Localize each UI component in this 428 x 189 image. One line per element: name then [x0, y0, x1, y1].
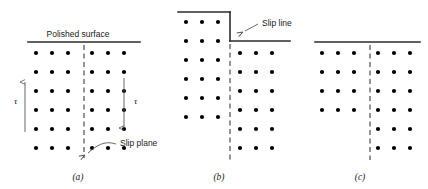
polished-surface-label: Polished surface [47, 29, 110, 39]
atom-dot-right [106, 70, 110, 74]
atom-dot-right [270, 89, 274, 93]
atom-dot-right [106, 89, 110, 93]
atom-dot-right [106, 51, 110, 55]
atom-dot-left [34, 108, 38, 112]
atom-dot-right [122, 51, 126, 55]
panel-caption-a: (a) [72, 172, 83, 183]
atom-dot-left [352, 70, 356, 74]
atom-dot-left [352, 108, 356, 112]
atom-dot-right [408, 89, 412, 93]
slip-deformation-figure: ττPolished surfaceSlip plane(a)Slip line… [0, 0, 428, 189]
atom-dot-right [238, 89, 242, 93]
atom-dot-left [66, 51, 70, 55]
atom-dot-left [200, 58, 204, 62]
atom-dot-left [184, 115, 188, 119]
panel-caption-c: (c) [355, 172, 366, 183]
atom-dot-left [320, 108, 324, 112]
atom-dot-right [106, 108, 110, 112]
atom-dot-left [352, 51, 356, 55]
atom-dot-left [336, 51, 340, 55]
atom-dot-left [50, 108, 54, 112]
atom-dot-left [50, 70, 54, 74]
atom-dot-right [254, 89, 258, 93]
atom-dot-right [254, 70, 258, 74]
atom-dot-left [200, 96, 204, 100]
atom-dot-right [238, 51, 242, 55]
atom-dot-right [376, 127, 380, 131]
atom-dot-right [376, 89, 380, 93]
atom-dot-right [376, 108, 380, 112]
atom-dot-left [336, 108, 340, 112]
atom-dot-left [184, 96, 188, 100]
atom-dot-right [408, 146, 412, 150]
atom-dot-right [254, 127, 258, 131]
atom-dot-right [106, 146, 110, 150]
atom-dot-right [270, 127, 274, 131]
atom-dot-right [392, 146, 396, 150]
atom-dot-right [254, 108, 258, 112]
atom-dot-right [270, 51, 274, 55]
figure-container: ττPolished surfaceSlip plane(a)Slip line… [0, 0, 428, 189]
atom-dot-left [184, 77, 188, 81]
atom-dot-right [376, 146, 380, 150]
atom-dot-right [392, 51, 396, 55]
atom-dot-left [184, 20, 188, 24]
atom-dot-left [200, 115, 204, 119]
panel-caption-b: (b) [213, 172, 224, 183]
atom-dot-left [50, 89, 54, 93]
atom-dot-right [408, 108, 412, 112]
atom-dot-left [34, 127, 38, 131]
atom-dot-left [34, 146, 38, 150]
atom-dot-left [216, 39, 220, 43]
atom-dot-right [408, 127, 412, 131]
atom-dot-left [66, 70, 70, 74]
atom-dot-left [216, 58, 220, 62]
atom-dot-left [336, 70, 340, 74]
atom-dot-left [50, 127, 54, 131]
atom-dot-right [90, 127, 94, 131]
atom-dot-right [254, 51, 258, 55]
atom-dot-right [408, 51, 412, 55]
atom-dot-left [66, 146, 70, 150]
atom-dot-left [184, 39, 188, 43]
atom-dot-left [34, 70, 38, 74]
atom-dot-right [90, 70, 94, 74]
atom-dot-left [320, 51, 324, 55]
atom-dot-right [122, 70, 126, 74]
atom-dot-right [270, 108, 274, 112]
atom-dot-left [34, 89, 38, 93]
atom-dot-right [238, 127, 242, 131]
atom-dot-right [270, 70, 274, 74]
atom-dot-left [352, 89, 356, 93]
atom-dot-left [50, 51, 54, 55]
atom-dot-right [392, 70, 396, 74]
atom-dot-left [34, 51, 38, 55]
atom-dot-right [90, 108, 94, 112]
atom-dot-right [254, 146, 258, 150]
atom-dot-right [392, 108, 396, 112]
atom-dot-left [50, 146, 54, 150]
atom-dot-right [90, 51, 94, 55]
atom-dot-left [184, 58, 188, 62]
atom-dot-right [90, 89, 94, 93]
atom-dot-left [216, 77, 220, 81]
atom-dot-left [200, 39, 204, 43]
atom-dot-right [376, 51, 380, 55]
atom-dot-left [336, 89, 340, 93]
atom-dot-left [200, 77, 204, 81]
atom-dot-left [200, 20, 204, 24]
atom-dot-left [216, 115, 220, 119]
atom-dot-left [320, 70, 324, 74]
atom-dot-right [392, 89, 396, 93]
atom-dot-right [270, 146, 274, 150]
atom-dot-left [216, 20, 220, 24]
atom-dot-right [238, 146, 242, 150]
slip-line-label: Slip line [262, 18, 292, 28]
atom-dot-right [238, 70, 242, 74]
atom-dot-right [408, 70, 412, 74]
atom-dot-left [66, 127, 70, 131]
atom-dot-right [106, 127, 110, 131]
atom-dot-left [66, 89, 70, 93]
atom-dot-left [216, 96, 220, 100]
atom-dot-right [376, 70, 380, 74]
